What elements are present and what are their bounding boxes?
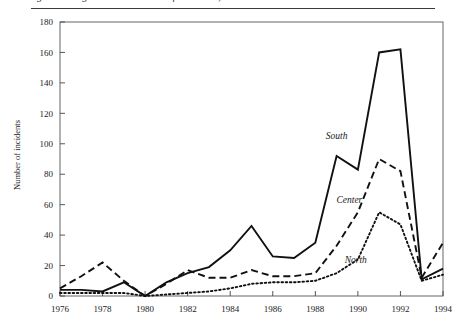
line-chart: 0204060801001201401601801976197819801982… <box>0 0 456 330</box>
series-line-south <box>60 49 443 296</box>
plot-area: 0204060801001201401601801976197819801982… <box>0 0 456 330</box>
x-tick-label: 1986 <box>264 304 283 314</box>
y-tick-label: 140 <box>40 78 54 88</box>
y-tick-label: 80 <box>44 169 54 179</box>
plot-frame <box>60 22 443 296</box>
y-tick-label: 160 <box>40 48 54 58</box>
figure-container: igure 3. Regional distribution of incide… <box>0 0 456 330</box>
x-tick-label: 1990 <box>349 304 368 314</box>
x-tick-label: 1984 <box>221 304 240 314</box>
series-label-north: North <box>344 255 367 265</box>
x-tick-label: 1994 <box>434 304 453 314</box>
series-label-south: South <box>326 131 348 141</box>
x-tick-label: 1980 <box>136 304 155 314</box>
y-tick-label: 40 <box>44 230 54 240</box>
x-tick-label: 1992 <box>391 304 409 314</box>
x-tick-label: 1976 <box>51 304 70 314</box>
series-label-center: Center <box>336 195 362 205</box>
y-tick-label: 120 <box>40 109 54 119</box>
y-tick-label: 60 <box>44 200 54 210</box>
y-tick-label: 20 <box>44 261 54 271</box>
x-tick-label: 1982 <box>179 304 197 314</box>
y-tick-label: 100 <box>40 139 54 149</box>
y-tick-label: 0 <box>49 291 54 301</box>
x-tick-label: 1978 <box>94 304 113 314</box>
x-tick-label: 1988 <box>306 304 325 314</box>
y-tick-label: 180 <box>40 17 54 27</box>
